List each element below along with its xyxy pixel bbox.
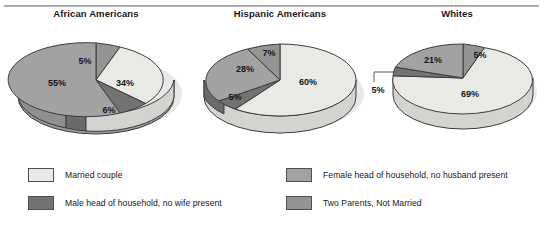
chart-legend: Married couple Female head of household,… — [0, 150, 547, 222]
slice-label-two-parents: 5% — [78, 56, 91, 66]
chart-title-whites: Whites — [382, 8, 532, 19]
pie-chart-african-americans: African Americans — [6, 8, 186, 140]
pie-chart-group: African Americans — [0, 8, 547, 140]
leader-line-male-head — [374, 72, 394, 82]
legend-item-male-head: Male head of household, no wife present — [28, 196, 222, 210]
pie-body-african-americans: 5% 34% 6% 55% — [6, 22, 186, 138]
chart-title-hispanic-americans: Hispanic Americans — [190, 8, 370, 19]
pie-chart-hispanic-americans: Hispanic Americans 60% 5% — [190, 8, 370, 140]
legend-swatch-male-head — [28, 196, 54, 210]
slice-label-married: 34% — [116, 78, 134, 88]
legend-item-married-couple: Married couple — [28, 168, 123, 182]
legend-label-two-parents: Two Parents, Not Married — [323, 198, 422, 208]
slice-label-male-head: 6% — [102, 105, 115, 115]
slice-label-female-head: 55% — [48, 78, 66, 88]
slice-label-two-parents: 7% — [262, 48, 275, 58]
pie-body-hispanic-americans: 60% 5% 28% 7% — [190, 22, 370, 138]
slice-label-two-parents: 5% — [473, 50, 486, 60]
legend-label-female-head: Female head of household, no husband pre… — [323, 170, 508, 180]
legend-item-female-head: Female head of household, no husband pre… — [286, 168, 508, 182]
chart-title-african-americans: African Americans — [6, 8, 186, 19]
pie-body-whites: 5% 69% 21% 5% — [370, 22, 547, 138]
legend-swatch-female-head — [286, 168, 312, 182]
legend-swatch-two-parents — [286, 196, 312, 210]
legend-label-male-head: Male head of household, no wife present — [65, 198, 222, 208]
chart-page: African Americans — [0, 0, 547, 227]
slice-label-male-head: 5% — [228, 92, 241, 102]
slice-label-married: 60% — [299, 77, 317, 87]
slice-label-married: 69% — [461, 89, 479, 99]
slice-label-female-head: 28% — [236, 64, 254, 74]
legend-swatch-married-couple — [28, 168, 54, 182]
pie-chart-whites: Whites 5% 69% — [370, 8, 547, 140]
slice-label-male-head: 5% — [371, 85, 384, 95]
slice-label-female-head: 21% — [424, 55, 442, 65]
legend-label-married-couple: Married couple — [65, 170, 123, 180]
legend-item-two-parents: Two Parents, Not Married — [286, 196, 422, 210]
top-divider — [4, 5, 539, 7]
